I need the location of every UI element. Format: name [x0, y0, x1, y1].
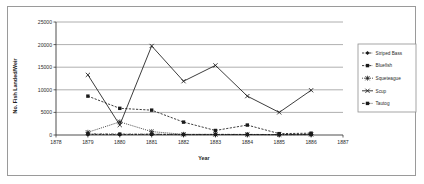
data-point-marker — [365, 76, 370, 81]
x-tick-label: 1887 — [337, 139, 348, 145]
data-point-marker — [309, 133, 312, 136]
gridlines — [56, 22, 343, 112]
x-tick-label: 1886 — [305, 139, 316, 145]
y-tick-label: 0 — [49, 132, 52, 138]
line-chart: 0500010000150002000025000 18781879188018… — [0, 0, 424, 184]
data-point-marker — [278, 133, 281, 136]
x-tick-label: 1881 — [146, 139, 157, 145]
data-point-marker — [181, 79, 185, 83]
y-tick-label: 10000 — [38, 87, 52, 93]
data-point-marker — [246, 123, 249, 126]
legend-label: Scup — [376, 89, 387, 94]
y-axis-tick-labels: 0500010000150002000025000 — [38, 19, 52, 138]
legend-label: Tautog — [376, 101, 390, 106]
y-axis-title: No. Fish Landed/Weir — [12, 58, 18, 114]
data-point-marker — [86, 73, 90, 77]
data-point-marker — [246, 133, 249, 136]
series-line — [88, 96, 311, 134]
data-point-marker — [182, 120, 185, 123]
x-axis-title: Year — [198, 155, 210, 161]
y-tick-label: 20000 — [38, 42, 52, 48]
legend-label: Bluefish — [376, 63, 393, 68]
data-point-marker — [245, 94, 249, 98]
x-tick-label: 1879 — [82, 139, 93, 145]
legend-label: Squeteague — [376, 76, 402, 81]
x-tick-label: 1878 — [50, 139, 61, 145]
series-layer — [85, 44, 313, 137]
x-tick-label: 1882 — [178, 139, 189, 145]
y-tick-label: 5000 — [41, 109, 52, 115]
x-tick-label: 1880 — [114, 139, 125, 145]
data-point-marker — [214, 129, 217, 132]
legend-label: Striped Bass — [376, 51, 403, 56]
data-point-marker — [118, 107, 121, 110]
data-point-marker — [366, 64, 369, 67]
data-point-marker — [86, 132, 89, 135]
x-tick-label: 1883 — [210, 139, 221, 145]
data-point-marker — [214, 133, 217, 136]
series-line — [88, 46, 311, 125]
data-point-marker — [150, 108, 153, 111]
series-scup — [86, 44, 313, 127]
data-point-marker — [86, 94, 89, 97]
series-bluefish — [86, 94, 313, 135]
data-point-marker — [118, 132, 121, 135]
x-tick-label: 1884 — [242, 139, 253, 145]
chart-legend: Striped BassBluefishSqueteagueScupTautog — [358, 44, 416, 112]
data-point-marker — [309, 88, 313, 92]
data-point-marker — [150, 132, 153, 135]
y-tick-label: 25000 — [38, 19, 52, 25]
data-point-marker — [366, 102, 369, 105]
y-tick-label: 15000 — [38, 64, 52, 70]
figure-root: 0500010000150002000025000 18781879188018… — [0, 0, 424, 184]
x-axis-tick-labels: 1878187918801881188218831884188518861887 — [50, 139, 348, 145]
x-tick-label: 1885 — [274, 139, 285, 145]
data-point-marker — [182, 133, 185, 136]
axis-lines — [56, 22, 343, 135]
